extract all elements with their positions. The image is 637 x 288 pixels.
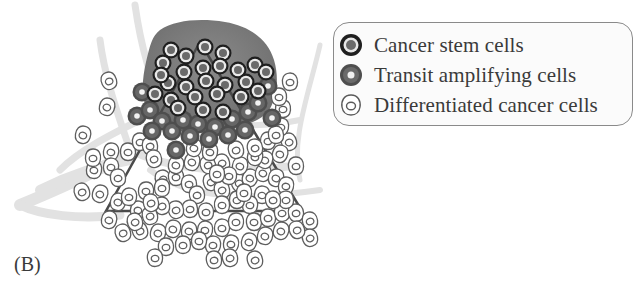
differentiated-cell [240,232,258,252]
cancer-stem-cell [153,67,170,84]
differentiated-cell [74,124,93,145]
transit-amplifying-cell-icon [338,62,364,88]
cancer-stem-cell [233,89,250,106]
differentiated-cell [147,248,164,267]
differentiated-cell [245,249,264,270]
legend-item-transit: Transit amplifying cells [334,62,576,88]
differentiated-cell [209,165,224,183]
cancer-stem-cell [195,102,212,119]
cancer-stem-cell [250,83,267,100]
differentiated-cell [154,179,169,197]
transit-amplifying-cell [181,127,200,146]
differentiated-cell [191,232,207,250]
differentiated-cell [90,183,110,204]
transit-amplifying-cell [263,109,282,128]
differentiated-cell [282,72,299,91]
differentiated-cell [288,156,304,175]
differentiated-cell [175,236,190,254]
panel-label: (B) [14,253,41,276]
transit-amplifying-cell [236,121,255,140]
legend-item-stem: Cancer stem cells [334,32,524,58]
differentiated-cell [246,213,261,231]
differentiated-cell [121,187,138,206]
differentiated-cell [228,213,244,231]
transit-amplifying-cell [219,126,238,145]
differentiated-cell [205,250,223,270]
cancer-stem-cell [212,58,229,75]
cancer-stem-cell [197,39,214,56]
transit-amplifying-cell [167,141,186,160]
transit-amplifying-cell [200,130,219,149]
differentiated-cell [198,202,215,221]
transit-amplifying-cell [143,122,162,141]
cancer-stem-cell-icon [338,32,364,58]
differentiated-cancer-cell-icon [338,92,364,118]
cancer-stem-cell [215,104,232,121]
differentiated-cell [99,70,119,92]
cancer-stem-cell [170,100,187,117]
differentiated-cell [214,196,230,214]
cancer-stem-cell [178,48,195,65]
legend-item-differentiated: Differentiated cancer cells [334,92,598,118]
cancer-stem-cell [258,64,275,81]
legend-label-transit: Transit amplifying cells [374,63,576,88]
differentiated-cell [85,149,101,167]
legend-label-differentiated: Differentiated cancer cells [374,93,598,118]
legend: Cancer stem cells Transit amplifying cel… [333,22,633,126]
differentiated-cell [236,184,252,202]
differentiated-cell [109,168,126,187]
cancer-stem-cell [209,86,226,103]
cancer-stem-cell [147,86,164,103]
cancer-stem-cell [198,73,215,90]
legend-label-stem: Cancer stem cells [374,33,524,58]
cancer-stem-cell [176,64,193,81]
